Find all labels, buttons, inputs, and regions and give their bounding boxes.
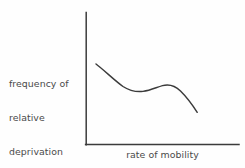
y-axis-label-line-3: deprivation [9,146,81,157]
deprivation-curve [96,64,197,112]
y-axis-label-line-1: frequency of [9,78,81,89]
y-axis-label: frequency of relative deprivation [9,56,81,168]
chart-figure: frequency of relative deprivation rate o… [0,0,245,168]
y-axis-label-line-2: relative [9,112,81,123]
x-axis-label: rate of mobility [86,149,239,160]
